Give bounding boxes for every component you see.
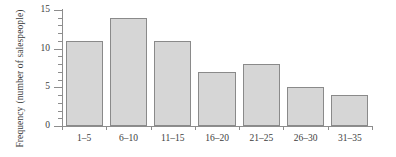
x-axis-tick (283, 127, 284, 130)
x-axis-tick (151, 127, 152, 130)
x-axis-tick-label: 11–15 (161, 133, 184, 144)
x-axis-tick-label: 6–10 (119, 133, 138, 144)
histogram-figure: Frequency (number of salespeople) 051015… (0, 0, 396, 157)
x-axis-tick (195, 127, 196, 130)
x-axis-tick-label: 16–20 (205, 133, 229, 144)
x-axis-tick (106, 127, 107, 130)
histogram-bar (287, 87, 324, 126)
histogram-bar (154, 41, 191, 126)
y-axis-tick-label: 10 (41, 44, 51, 54)
histogram-bar (243, 64, 280, 126)
histogram-bar (331, 95, 368, 126)
y-axis-tick-label: 0 (45, 121, 50, 131)
x-axis-tick (239, 127, 240, 130)
y-axis-tick-label: 15 (41, 5, 51, 15)
x-axis-ticks-and-labels: 1–56–1011–1516–2021–2526–3031–35 (62, 127, 373, 157)
y-axis-ticks: 051015 (0, 0, 63, 157)
bars-group (62, 10, 373, 126)
x-axis-tick-label: 21–25 (249, 133, 273, 144)
x-axis-tick-label: 1–5 (77, 133, 91, 144)
x-axis-tick-label: 26–30 (294, 133, 318, 144)
x-axis-tick (372, 127, 373, 130)
x-axis-tick-label: 31–35 (338, 133, 362, 144)
y-axis-tick-label: 5 (45, 82, 50, 92)
histogram-bar (198, 72, 235, 126)
histogram-bar (110, 18, 147, 126)
histogram-bar (66, 41, 103, 126)
x-axis-tick (328, 127, 329, 130)
x-axis-tick (62, 127, 63, 130)
